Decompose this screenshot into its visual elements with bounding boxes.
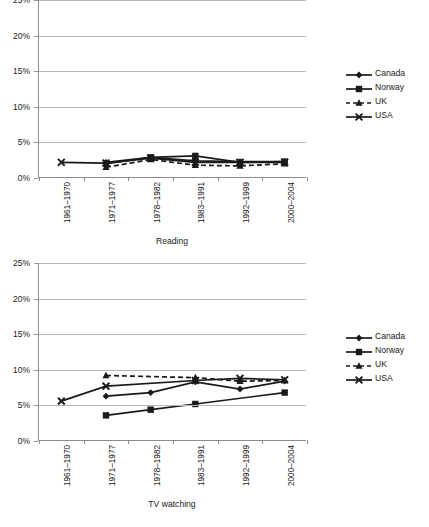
gridline: [39, 405, 306, 406]
x-axis-tv: 1961–19701971–19771978–19821983–19911992…: [38, 441, 306, 499]
series-canvas-tv: [39, 263, 307, 441]
legend-marker-triangle-icon: [345, 358, 373, 370]
x-tick-label: 2000–2004: [288, 182, 296, 223]
gridline: [39, 0, 306, 1]
y-tick-label: 15%: [13, 330, 30, 339]
legend-item-uk[interactable]: UK: [345, 357, 429, 371]
legend-label: USA: [373, 111, 393, 120]
legend-marker-diamond-icon: [345, 330, 373, 342]
legend-marker-square-icon: [345, 81, 373, 93]
x-tick-label: 1978–1982: [154, 182, 162, 223]
y-tick-label: 5%: [18, 401, 30, 410]
legend-item-norway[interactable]: Norway: [345, 343, 429, 357]
x-tick-mark: [307, 440, 308, 444]
y-tick-label: 15%: [13, 67, 30, 76]
chart-reading: 0%5%10%15%20%25% 1961–19701971–19771978–…: [0, 0, 429, 263]
axis-title-reading: Reading: [38, 236, 306, 246]
legend-label: Canada: [373, 69, 405, 78]
x-tick-label: 1971–1977: [109, 182, 117, 223]
x-axis-reading: 1961–19701971–19771978–19821983–19911992…: [38, 178, 306, 236]
x-tick-label: 1971–1977: [109, 445, 117, 486]
gridline: [39, 142, 306, 143]
gridline: [39, 71, 306, 72]
chart-tv-watching: 0%5%10%15%20%25% 1961–19701971–19771978–…: [0, 263, 429, 526]
y-tick-label: 25%: [13, 0, 30, 5]
y-tick-label: 20%: [13, 295, 30, 304]
legend-label: Norway: [373, 83, 404, 92]
x-tick-label: 1992–1999: [243, 182, 251, 223]
plot-area-reading: [38, 0, 306, 178]
gridline: [39, 107, 306, 108]
legend-item-norway[interactable]: Norway: [345, 80, 429, 94]
y-tick-label: 0%: [18, 174, 30, 183]
y-tick-label: 10%: [13, 103, 30, 112]
y-axis-reading: 0%5%10%15%20%25%: [0, 0, 34, 200]
legend-marker-square-icon: [345, 344, 373, 356]
gridline: [39, 334, 306, 335]
plot-area-tv: [38, 263, 306, 441]
y-tick-label: 20%: [13, 32, 30, 41]
legend-marker-x-icon: [345, 372, 373, 384]
plot-wrapper-tv: 0%5%10%15%20%25% 1961–19701971–19771978–…: [0, 263, 340, 463]
plot-wrapper-reading: 0%5%10%15%20%25% 1961–19701971–19771978–…: [0, 0, 340, 200]
legend-item-canada[interactable]: Canada: [345, 66, 429, 80]
legend-label: Canada: [373, 332, 405, 341]
gridline: [39, 263, 306, 264]
y-tick-label: 5%: [18, 138, 30, 147]
y-tick-label: 0%: [18, 437, 30, 446]
x-tick-label: 1961–1970: [64, 182, 72, 223]
legend-reading: CanadaNorwayUKUSA: [345, 66, 429, 122]
legend-label: USA: [373, 374, 393, 383]
series-canvas-reading: [39, 0, 307, 178]
legend-label: UK: [373, 97, 387, 106]
gridline: [39, 370, 306, 371]
x-tick-label: 1983–1991: [198, 182, 206, 223]
legend-item-canada[interactable]: Canada: [345, 329, 429, 343]
legend-tv: CanadaNorwayUKUSA: [345, 329, 429, 385]
gridline: [39, 36, 306, 37]
x-tick-label: 1978–1982: [154, 445, 162, 486]
x-tick-label: 1983–1991: [198, 445, 206, 486]
legend-marker-x-icon: [345, 109, 373, 121]
legend-label: UK: [373, 360, 387, 369]
figure-page: 0%5%10%15%20%25% 1961–19701971–19771978–…: [0, 0, 429, 527]
y-axis-tv: 0%5%10%15%20%25%: [0, 263, 34, 463]
legend-item-uk[interactable]: UK: [345, 94, 429, 108]
x-tick-label: 1992–1999: [243, 445, 251, 486]
y-tick-label: 25%: [13, 259, 30, 268]
legend-item-usa[interactable]: USA: [345, 371, 429, 385]
gridline: [39, 299, 306, 300]
x-tick-label: 2000–2004: [288, 445, 296, 486]
legend-label: Norway: [373, 346, 404, 355]
legend-marker-diamond-icon: [345, 67, 373, 79]
x-tick-mark: [307, 177, 308, 181]
legend-item-usa[interactable]: USA: [345, 108, 429, 122]
axis-title-tv: TV watching: [38, 499, 306, 509]
y-tick-label: 10%: [13, 366, 30, 375]
x-tick-label: 1961–1970: [64, 445, 72, 486]
legend-marker-triangle-icon: [345, 95, 373, 107]
